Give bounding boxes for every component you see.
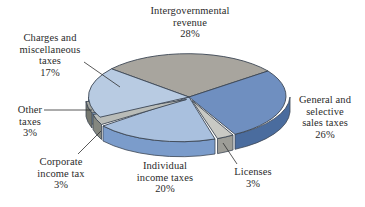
slice-label-line-2: selective — [286, 106, 364, 118]
slice-label-individual-income-taxes: Individual income taxes 20% — [112, 160, 218, 195]
slice-label-percent: 28% — [133, 28, 247, 40]
slice-label-line-1: Charges and — [2, 32, 98, 44]
slice-label-percent: 17% — [2, 67, 98, 79]
slice-label-line-1: Corporate — [13, 156, 109, 168]
slice-label-line-2: miscellaneous — [2, 44, 98, 56]
slice-label-corporate-income-tax: Corporate income tax 3% — [13, 156, 109, 191]
slice-label-line-1: General and — [286, 94, 364, 106]
slice-label-line-3: sales taxes — [286, 117, 364, 129]
pie-chart-figure: Intergovernmental revenue 28% Charges an… — [0, 0, 365, 207]
slice-label-line-1: Licenses — [218, 166, 288, 178]
slice-label-percent: 3% — [218, 178, 288, 190]
leader-line-corporate — [78, 131, 101, 154]
slice-label-other-taxes: Other taxes 3% — [2, 104, 58, 139]
slice-label-line-1: Other — [2, 104, 58, 116]
slice-label-line-2: revenue — [133, 17, 247, 29]
slice-label-percent: 3% — [13, 179, 109, 191]
slice-label-line-1: Individual — [112, 160, 218, 172]
slice-label-line-2: income tax — [13, 168, 109, 180]
slice-label-licenses: Licenses 3% — [218, 166, 288, 189]
slice-label-intergovernmental-revenue: Intergovernmental revenue 28% — [133, 5, 247, 40]
slice-label-percent: 3% — [2, 127, 58, 139]
slice-label-percent: 20% — [112, 183, 218, 195]
slice-label-percent: 26% — [286, 129, 364, 141]
slice-label-line-1: Intergovernmental — [133, 5, 247, 17]
slice-label-general-and-selective-sales-taxes: General and selective sales taxes 26% — [286, 94, 364, 140]
slice-label-line-2: taxes — [2, 116, 58, 128]
slice-label-charges-and-miscellaneous-taxes: Charges and miscellaneous taxes 17% — [2, 32, 98, 78]
slice-label-line-2: income taxes — [112, 172, 218, 184]
slice-label-line-3: taxes — [2, 55, 98, 67]
